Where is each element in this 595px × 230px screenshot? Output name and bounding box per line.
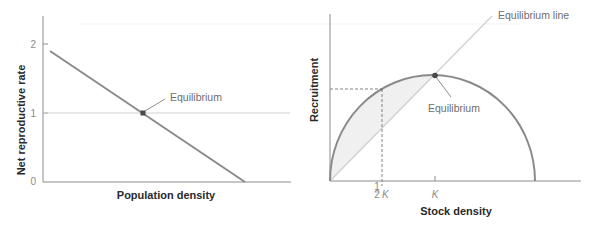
half-denominator: 2 (374, 189, 380, 200)
tick-label-2: 2 (30, 39, 36, 50)
right-x-axis-title: Stock density (420, 205, 492, 217)
half-k-label: K (382, 189, 390, 200)
right-equilibrium-dot (432, 73, 438, 79)
equilibrium-leader-line (145, 99, 165, 111)
equilibrium-line (330, 16, 492, 181)
right-y-axis-title: Recruitment (308, 58, 320, 123)
tick-label-1: 1 (30, 108, 36, 119)
equilibrium-label: Equilibrium (170, 91, 222, 103)
tick-label-0: 0 (30, 176, 36, 187)
x-axis-title: Population density (117, 189, 216, 201)
equilibrium-line-label: Equilibrium line (498, 9, 569, 21)
right-equilibrium-leader-line (436, 77, 451, 97)
right-equilibrium-label: Equilibrium (428, 102, 480, 114)
left-chart: 2 1 0 Equilibrium Population density Net… (15, 16, 291, 201)
equilibrium-dot (141, 111, 146, 116)
y-axis-title: Net reproductive rate (15, 65, 27, 176)
right-chart: Equilibrium line Equilibrium 1 2 K K Sto… (308, 9, 581, 217)
figure: 2 1 0 Equilibrium Population density Net… (0, 0, 595, 230)
k-label: K (432, 189, 440, 200)
net-reproductive-rate-line (50, 51, 245, 182)
